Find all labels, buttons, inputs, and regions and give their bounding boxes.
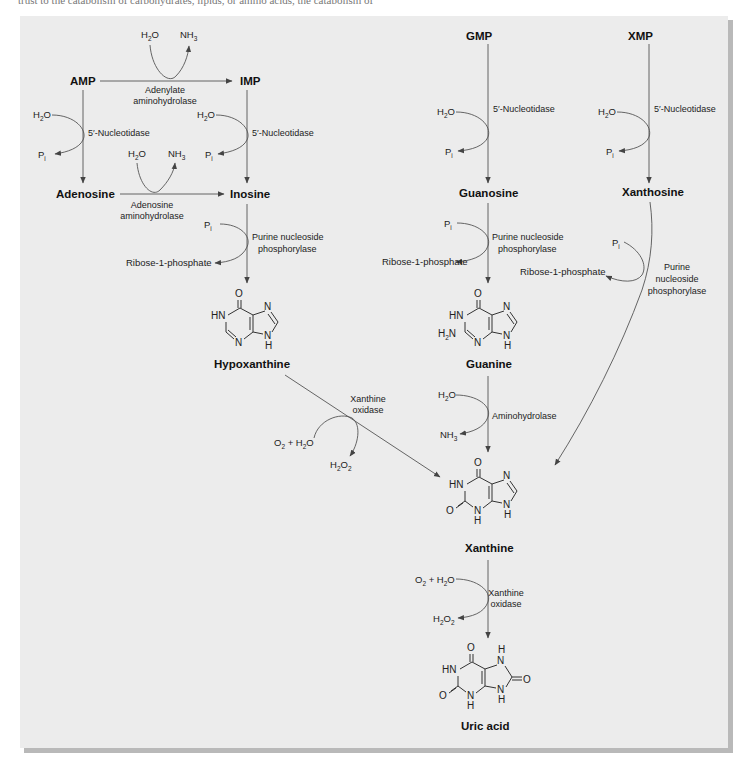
label-ribose-1-phosphate: Ribose-1-phosphate xyxy=(382,256,468,267)
svg-text:O: O xyxy=(474,288,482,299)
label-h2o: H2O xyxy=(197,109,215,122)
cofactor-curve xyxy=(456,395,489,434)
enzyme-label: Adenylate xyxy=(145,85,185,95)
label-h2o2: H2O2 xyxy=(433,613,455,626)
compound-guanosine: Guanosine xyxy=(459,187,518,199)
label-h2o: H2O xyxy=(33,109,51,122)
cofactor-curve xyxy=(456,112,489,151)
compound-hypoxanthine: Hypoxanthine xyxy=(214,358,290,370)
svg-text:N: N xyxy=(503,470,510,481)
compound-guanine: Guanine xyxy=(466,358,512,370)
label-pi: Pi xyxy=(612,237,620,250)
label-h2o: H2O xyxy=(141,29,159,42)
enzyme-label: 5′-Nucleotidase xyxy=(252,128,314,138)
enzyme-label: phosphorylase xyxy=(498,244,557,254)
label-pi: Pi xyxy=(205,149,213,162)
enzyme-label: oxidase xyxy=(490,599,521,609)
svg-text:N: N xyxy=(503,301,510,312)
arrow-hypoxanthine-to-xanthine xyxy=(285,375,440,477)
label-o2-h2o: O2 + H2O xyxy=(415,574,455,587)
enzyme-label: phosphorylase xyxy=(648,286,707,296)
svg-text:N: N xyxy=(264,301,271,312)
label-pi: Pi xyxy=(606,146,614,159)
label-h2o: H2O xyxy=(437,106,455,119)
enzyme-label: Aminohydrolase xyxy=(492,411,557,421)
svg-text:HN: HN xyxy=(442,664,456,675)
label-h2o: H2O xyxy=(128,148,146,161)
enzyme-label: Purine xyxy=(664,262,690,272)
svg-text:H: H xyxy=(498,644,505,655)
label-pi: Pi xyxy=(444,218,452,231)
compound-inosine: Inosine xyxy=(230,188,270,200)
label-h2o: H2O xyxy=(598,106,616,119)
label-pi: Pi xyxy=(204,219,212,232)
compound-imp: IMP xyxy=(240,75,261,87)
label-o2-h2o: O2 + H2O xyxy=(274,437,314,450)
enzyme-label: Purine nucleoside xyxy=(492,232,564,242)
svg-text:H: H xyxy=(265,340,272,351)
cofactor-curve xyxy=(215,224,248,263)
structure-xanthine: O HN O N H N N H xyxy=(446,457,517,526)
svg-text:HN: HN xyxy=(449,479,463,490)
svg-text:O: O xyxy=(474,457,482,468)
cofactor-curve xyxy=(150,45,189,79)
structure-hypoxanthine: O HN N N N H xyxy=(211,288,278,351)
enzyme-label: 5′-Nucleotidase xyxy=(654,104,716,114)
svg-text:H: H xyxy=(467,700,474,711)
cofactor-curve xyxy=(137,163,175,192)
svg-text:HN: HN xyxy=(449,310,463,321)
svg-text:O: O xyxy=(235,288,243,299)
label-ribose-1-phosphate: Ribose-1-phosphate xyxy=(126,257,212,268)
enzyme-label: phosphorylase xyxy=(258,244,317,254)
enzyme-label: Adenosine xyxy=(131,200,174,210)
compound-xanthine: Xanthine xyxy=(465,542,514,554)
compound-amp: AMP xyxy=(70,75,96,87)
enzyme-label: Xanthine xyxy=(350,394,386,404)
cofactor-curve xyxy=(52,115,84,154)
cofactor-curve xyxy=(216,115,248,154)
svg-text:O: O xyxy=(523,674,531,685)
purine-degradation-diagram: AMP IMP H2O NH3 Adenylate aminohydrolase… xyxy=(0,0,755,768)
svg-text:H: H xyxy=(504,340,511,351)
compound-xanthosine: Xanthosine xyxy=(622,186,684,198)
svg-text:H: H xyxy=(498,694,505,705)
compound-xmp: XMP xyxy=(628,30,653,42)
svg-text:N: N xyxy=(235,337,242,348)
label-pi: Pi xyxy=(445,146,453,159)
enzyme-label: 5′-Nucleotidase xyxy=(88,128,150,138)
arrow-xanthosine-to-xanthine xyxy=(555,202,652,465)
svg-text:H: H xyxy=(504,509,511,520)
enzyme-label: Purine nucleoside xyxy=(252,232,324,242)
svg-text:O: O xyxy=(446,505,454,516)
label-h2n: H2N xyxy=(438,328,456,341)
enzyme-label: Xanthine xyxy=(488,588,524,598)
enzyme-label: oxidase xyxy=(352,405,383,415)
structure-uric-acid: O HN O N H H N O N H xyxy=(439,642,531,711)
svg-text:O: O xyxy=(439,690,447,701)
cofactor-curve xyxy=(314,416,358,456)
enzyme-label: aminohydrolase xyxy=(133,96,197,106)
svg-text:O: O xyxy=(467,642,475,653)
cofactor-curve xyxy=(456,579,489,618)
svg-text:H: H xyxy=(474,515,481,526)
label-ribose-1-phosphate: Ribose-1-phosphate xyxy=(520,266,606,277)
svg-text:N: N xyxy=(474,337,481,348)
label-h2o2: H2O2 xyxy=(330,459,352,472)
compound-uric-acid: Uric acid xyxy=(461,720,510,732)
label-pi: Pi xyxy=(38,149,46,162)
enzyme-label: 5′-Nucleotidase xyxy=(493,104,555,114)
enzyme-label: nucleoside xyxy=(655,274,698,284)
label-nh3: NH3 xyxy=(180,29,198,42)
label-nh3: NH3 xyxy=(440,429,458,442)
compound-adenosine: Adenosine xyxy=(56,188,115,200)
enzyme-label: aminohydrolase xyxy=(120,211,184,221)
structure-guanine: O HN H2N N N N H xyxy=(438,288,517,351)
svg-text:N: N xyxy=(497,655,504,666)
svg-text:HN: HN xyxy=(211,310,225,321)
compound-gmp: GMP xyxy=(466,30,493,42)
label-nh3: NH3 xyxy=(168,148,186,161)
cofactor-curve xyxy=(617,112,650,151)
label-h2o: H2O xyxy=(438,389,456,402)
